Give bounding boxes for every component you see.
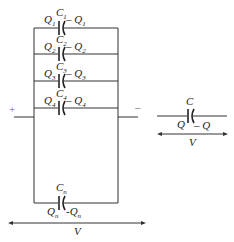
cn-label: Cn [56, 181, 67, 196]
minus-terminal: – [134, 101, 141, 113]
equivalent-left-charge: Q [177, 118, 185, 130]
equivalent-capacitor-label: C [186, 95, 194, 107]
c1-left-charge: Q1 [44, 13, 55, 28]
plus-terminal: + [9, 103, 15, 115]
c4-right-charge: – Q4 [65, 94, 86, 109]
c4-left-charge: Q4 [44, 94, 56, 109]
voltage-arrow: V [8, 221, 146, 237]
capacitor-c2: Q2 C2 – Q2 [34, 33, 118, 61]
parallel-capacitor-diagram: Q1 C1 – Q1 Q2 C2 – Q2 Q3 C3 – Q3 [0, 0, 234, 242]
c2-left-charge: Q2 [44, 40, 56, 55]
c3-left-charge: Q3 [44, 67, 56, 82]
c1-right-charge: – Q1 [65, 13, 86, 28]
parallel-network: Q1 C1 – Q1 Q2 C2 – Q2 Q3 C3 – Q3 [8, 6, 146, 237]
capacitor-c4: Q4 C4 – Q4 [34, 87, 118, 115]
cn-right-charge: -Qn [66, 205, 82, 220]
voltage-label: V [74, 225, 82, 237]
capacitor-c3: Q3 C3 – Q3 [34, 60, 118, 88]
cn-left-charge: Qn [47, 205, 59, 220]
equivalent-right-charge: – Q [193, 119, 210, 131]
equivalent-capacitor: C Q – Q V [157, 95, 228, 148]
capacitor-cn: Cn Qn -Qn [34, 181, 118, 220]
c2-right-charge: – Q2 [65, 40, 86, 55]
capacitor-c1: Q1 C1 – Q1 [34, 6, 118, 35]
equivalent-voltage-label: V [189, 136, 197, 148]
c3-right-charge: – Q3 [65, 67, 86, 82]
